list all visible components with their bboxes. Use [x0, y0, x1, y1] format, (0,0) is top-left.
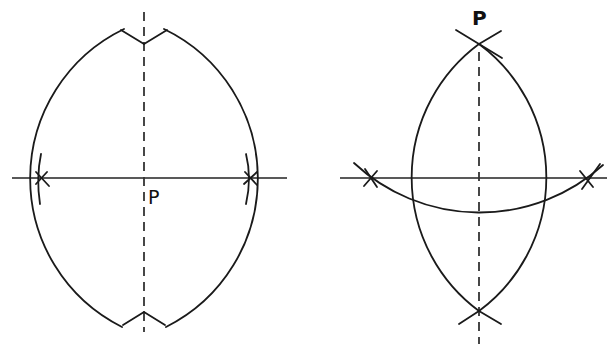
right-right-mark-x-a: [580, 171, 593, 187]
construction-diagram: P P: [0, 0, 607, 344]
left-top-cross-a: [121, 30, 144, 44]
right-bottom-cross-b: [479, 311, 501, 324]
right-point-label: P: [472, 6, 487, 30]
right-bottom-cross-a: [459, 311, 479, 324]
left-point-label: P: [148, 186, 159, 208]
left-figure: P: [12, 12, 287, 332]
left-top-cross-b: [144, 30, 167, 44]
right-figure: P: [340, 6, 607, 344]
right-top-cross-b: [479, 31, 501, 44]
left-bottom-cross-b: [144, 312, 165, 325]
left-bottom-cross-a: [123, 312, 144, 325]
